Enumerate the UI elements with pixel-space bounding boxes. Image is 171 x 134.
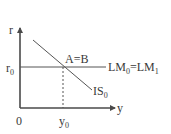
y-axis-label: r — [9, 23, 13, 37]
x-axis-label: y — [117, 101, 123, 115]
islm-diagram: r y 0 r0 y0 A=B LM0=LM1 IS0 — [0, 0, 171, 134]
lm-label: LM0=LM1 — [108, 60, 159, 76]
y0-label: y0 — [59, 114, 69, 130]
intersection-label: A=B — [65, 52, 88, 66]
origin-label: 0 — [16, 114, 22, 128]
is-label: IS0 — [93, 84, 108, 100]
r0-label: r0 — [6, 61, 14, 77]
